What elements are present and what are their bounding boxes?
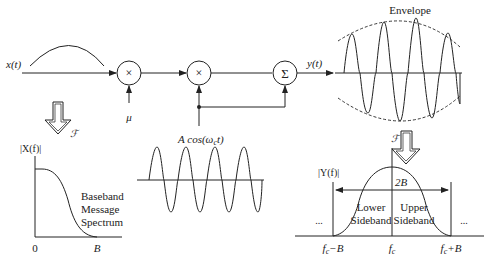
carrier-waveform: A cos(ωct) (137, 133, 264, 212)
input-signal: x(t) (5, 46, 116, 74)
sum-icon: Σ (281, 66, 289, 81)
baseband-spectrum-plot: |X(f)| Baseband Message Spectrum 0 B (20, 143, 124, 254)
baseband-caption-3: Spectrum (81, 216, 124, 228)
am-output-waveform: Envelope (335, 4, 462, 121)
fourier-arrow-left: ℱ (45, 102, 80, 139)
output-label: y(t) (306, 57, 323, 70)
baseband-caption-1: Baseband (81, 190, 124, 202)
input-label: x(t) (5, 58, 22, 71)
mixer-2: × (187, 61, 285, 126)
tick-fc-minus-b: fc−B (323, 242, 344, 256)
upper-sideband-1: Upper (400, 201, 428, 213)
ellipsis-right: ... (460, 215, 468, 226)
multiply-icon: × (126, 66, 133, 80)
fourier-icon: ℱ (70, 128, 80, 139)
modulated-ylabel: |Y(f)| (318, 167, 339, 179)
tick-zero: 0 (32, 242, 38, 254)
lower-sideband-2: Sideband (351, 214, 392, 226)
bandwidth-label: 2B (395, 176, 408, 188)
tick-fc: fc (389, 242, 396, 256)
fourier-arrow-right: ℱ (391, 131, 420, 164)
mu-label: μ (125, 111, 132, 123)
modulated-spectrum-plot: |Y(f)| 2B Lower Sideband Upper Sideband … (295, 148, 484, 256)
envelope-label: Envelope (389, 4, 431, 16)
upper-envelope (338, 21, 460, 47)
mixer-1: × μ (117, 61, 186, 123)
baseband-caption-2: Message (81, 203, 120, 215)
baseband-ylabel: |X(f)| (20, 143, 41, 155)
lower-envelope (338, 96, 460, 121)
summer: Σ y(t) (273, 57, 333, 85)
ellipsis-left: ... (315, 215, 323, 226)
fourier-icon: ℱ (391, 133, 401, 144)
upper-sideband-2: Sideband (394, 214, 435, 226)
tick-fc-plus-b: fc+B (441, 242, 462, 256)
lower-sideband-1: Lower (357, 201, 386, 213)
multiply-icon: × (196, 66, 203, 80)
message-waveform (30, 46, 104, 67)
tick-b: B (94, 242, 101, 254)
am-modulation-diagram: x(t) × μ × Σ y(t) Envelope A cos(ωct) (0, 0, 484, 257)
carrier-label: A cos(ωct) (177, 133, 224, 147)
